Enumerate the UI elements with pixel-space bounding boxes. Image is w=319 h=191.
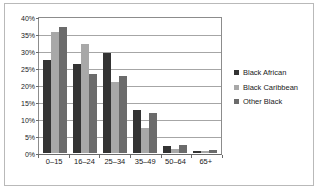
x-tick-mark xyxy=(222,155,223,158)
chart-legend: Black AfricanBlack CaribbeanOther Black xyxy=(234,69,298,106)
legend-item[interactable]: Black African xyxy=(234,69,298,77)
bar[interactable] xyxy=(81,44,89,153)
bar-group xyxy=(160,19,190,153)
y-tick-label: 30% xyxy=(21,49,35,56)
y-tick-label: 25% xyxy=(21,66,35,73)
x-tick-label: 25–34 xyxy=(100,158,130,166)
y-tick-mark xyxy=(36,35,39,36)
bar[interactable] xyxy=(133,110,141,153)
bar[interactable] xyxy=(179,145,187,153)
y-tick-label: 10% xyxy=(21,117,35,124)
bar[interactable] xyxy=(103,53,111,153)
bar[interactable] xyxy=(201,151,209,153)
bar[interactable] xyxy=(171,149,179,153)
chart-figure: 0%5%10%15%20%25%30%35%40% 0–1516–2425–34… xyxy=(4,3,314,186)
bar-group xyxy=(40,19,70,153)
y-tick-mark xyxy=(36,52,39,53)
x-tick-mark xyxy=(99,155,100,158)
y-tick-mark xyxy=(36,69,39,70)
bar[interactable] xyxy=(163,146,171,153)
bar[interactable] xyxy=(73,64,81,153)
x-tick-mark xyxy=(191,155,192,158)
y-tick-label: 40% xyxy=(21,15,35,22)
bar-group xyxy=(100,19,130,153)
bar[interactable] xyxy=(149,113,157,153)
bar[interactable] xyxy=(43,60,51,153)
legend-label: Other Black xyxy=(243,98,282,106)
bar[interactable] xyxy=(89,74,97,153)
y-tick-label: 20% xyxy=(21,83,35,90)
bar-groups xyxy=(40,19,220,153)
bar[interactable] xyxy=(193,151,201,153)
bar[interactable] xyxy=(119,76,127,153)
bar[interactable] xyxy=(51,32,59,153)
x-tick-mark xyxy=(69,155,70,158)
y-tick-mark xyxy=(36,120,39,121)
legend-label: Black African xyxy=(243,69,286,77)
x-tick-label: 16–24 xyxy=(69,158,99,166)
bar[interactable] xyxy=(111,82,119,153)
y-tick-label: 0% xyxy=(25,151,35,158)
x-tick-label: 0–15 xyxy=(39,158,69,166)
y-tick-mark xyxy=(36,103,39,104)
x-tick-mark xyxy=(161,155,162,158)
legend-item[interactable]: Black Caribbean xyxy=(234,84,298,92)
x-axis-labels: 0–1516–2425–3435–4950–6465+ xyxy=(39,158,221,166)
bar[interactable] xyxy=(209,150,217,153)
y-tick-mark xyxy=(36,18,39,19)
bar-chart: 0%5%10%15%20%25%30%35%40% 0–1516–2425–34… xyxy=(5,4,313,185)
y-tick-mark xyxy=(36,137,39,138)
plot-area: 0%5%10%15%20%25%30%35%40% xyxy=(38,17,222,155)
x-tick-label: 35–49 xyxy=(130,158,160,166)
bar-group xyxy=(190,19,220,153)
x-tick-mark xyxy=(38,155,39,158)
x-tick-mark xyxy=(130,155,131,158)
legend-label: Black Caribbean xyxy=(243,84,298,92)
bar-group xyxy=(70,19,100,153)
legend-swatch-icon xyxy=(234,99,239,104)
bar-group xyxy=(130,19,160,153)
bar[interactable] xyxy=(59,27,67,153)
y-tick-label: 5% xyxy=(25,134,35,141)
bar[interactable] xyxy=(141,128,149,153)
legend-swatch-icon xyxy=(234,70,239,75)
legend-item[interactable]: Other Black xyxy=(234,98,298,106)
x-tick-label: 50–64 xyxy=(160,158,190,166)
legend-swatch-icon xyxy=(234,85,239,90)
x-tick-label: 65+ xyxy=(191,158,221,166)
y-tick-mark xyxy=(36,86,39,87)
y-tick-label: 35% xyxy=(21,32,35,39)
y-tick-label: 15% xyxy=(21,100,35,107)
